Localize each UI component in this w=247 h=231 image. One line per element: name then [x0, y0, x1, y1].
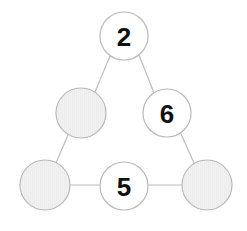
circle-bottom-right-shaded-shape[interactable]: [182, 160, 232, 210]
circle-upper-right-6[interactable]: 6: [143, 89, 191, 137]
nodes-layer: 265: [20, 12, 232, 210]
edge-upper-right-to-bottom-right: [181, 134, 194, 163]
triangle-puzzle-canvas: 265: [0, 0, 247, 231]
circle-upper-left-shaded[interactable]: [56, 88, 106, 138]
circle-top-2-label: 2: [117, 22, 131, 52]
circle-upper-right-6-label: 6: [160, 99, 174, 129]
edge-top-to-upper-right: [139, 55, 154, 93]
circle-bottom-center-5[interactable]: 5: [100, 162, 148, 210]
circle-bottom-left-shaded[interactable]: [20, 160, 70, 210]
circle-bottom-right-shaded[interactable]: [182, 160, 232, 210]
circle-upper-left-shaded-shape[interactable]: [56, 88, 106, 138]
edge-upper-left-to-bottom-left: [56, 135, 68, 163]
circle-top-2[interactable]: 2: [100, 12, 148, 60]
circle-bottom-left-shaded-shape[interactable]: [20, 160, 70, 210]
puzzle-diagram: 265: [0, 0, 247, 231]
edge-top-to-upper-left: [95, 56, 110, 92]
circle-bottom-center-5-label: 5: [117, 172, 131, 202]
